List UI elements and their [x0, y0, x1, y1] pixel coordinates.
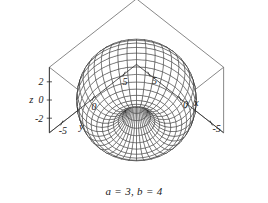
- x-tick-label-1: 0: [183, 99, 188, 110]
- mesh-quad: [130, 95, 136, 101]
- x-tick-label-2: -5: [212, 123, 220, 134]
- mesh-quad: [165, 123, 171, 127]
- mesh-quad: [137, 53, 146, 60]
- mesh-quad: [131, 100, 136, 104]
- y-tick-label-0: -5: [59, 125, 67, 136]
- mesh-quad: [137, 82, 145, 90]
- z-tick-label-0: 2: [38, 76, 43, 87]
- mesh-quad: [137, 74, 145, 82]
- z-tick-label-1: 0: [38, 94, 43, 105]
- mesh-quad: [137, 60, 146, 68]
- y-tick-label-2: 5: [123, 76, 128, 87]
- torus-figure: 20-2z-505y50-5x a = 3, b = 4: [0, 0, 268, 203]
- z-axis-label: z: [28, 94, 33, 105]
- mesh-quad: [127, 47, 136, 53]
- y-tick-label-1: 0: [91, 101, 96, 112]
- mesh-quad: [127, 60, 136, 68]
- mesh-quad: [127, 53, 136, 60]
- plot-canvas: 20-2z-505y50-5x: [0, 0, 268, 203]
- mesh-quad: [127, 43, 136, 48]
- mesh-quad: [137, 89, 144, 96]
- z-tick-label-2: -2: [35, 113, 43, 124]
- mesh-quad: [129, 89, 136, 96]
- x-axis-label: x: [193, 97, 199, 108]
- mesh-quad: [129, 82, 137, 90]
- x-tick-label-0: 5: [152, 75, 157, 86]
- y-axis-label: y: [78, 121, 84, 132]
- figure-caption: a = 3, b = 4: [0, 185, 268, 197]
- mesh-quad: [128, 74, 136, 82]
- mesh-quad: [102, 123, 108, 127]
- mesh-quad: [137, 43, 146, 48]
- mesh-quad: [137, 95, 143, 101]
- mesh-quad: [137, 47, 146, 53]
- mesh-quad: [137, 100, 142, 104]
